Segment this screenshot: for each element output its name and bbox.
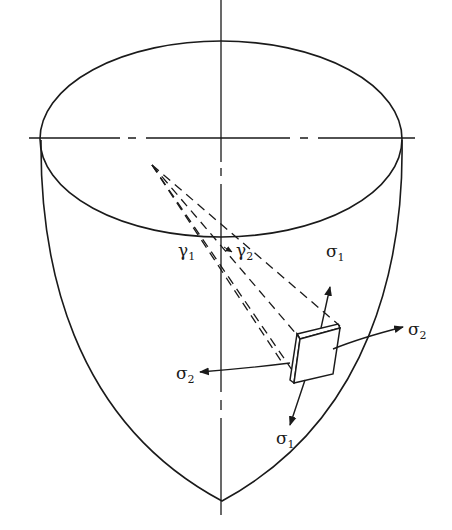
label-gamma1: γ1 xyxy=(178,240,195,263)
label-sigma2-right: σ2 xyxy=(408,319,427,342)
stress-element xyxy=(290,324,340,383)
label-gamma2: γ2 xyxy=(236,240,253,263)
label-sigma1-bottom: σ1 xyxy=(276,428,295,451)
ellipsoid-stress-diagram: γ1 γ2 σ1 σ2 σ2 σ1 xyxy=(0,0,452,530)
label-sigma1-top: σ1 xyxy=(326,241,345,264)
sigma2-arrow-left xyxy=(200,363,290,372)
sigma1-arrow-down xyxy=(290,380,305,425)
sigma1-arrow-up xyxy=(321,287,330,328)
label-sigma2-left: σ2 xyxy=(176,363,195,386)
